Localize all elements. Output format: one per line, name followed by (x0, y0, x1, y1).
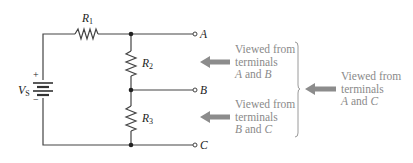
terminal-circles (193, 32, 197, 147)
circuit-diagram: + − VS R1 R2 R3 A B C Viewed from termin… (0, 0, 413, 163)
annotation-ac: Viewed from terminals A and C (340, 70, 401, 107)
resistor-r2 (126, 51, 136, 76)
r3-label: R3 (141, 112, 153, 126)
brace-bracket (295, 42, 300, 137)
svg-text:A and B: A and B (234, 68, 271, 80)
resistor-r3 (126, 106, 136, 131)
arrow-left-icon (200, 56, 230, 68)
terminal-b-label: B (200, 84, 207, 96)
wire-bottom (43, 98, 193, 145)
r1-label: R1 (81, 12, 93, 26)
arrow-left-icon (305, 83, 336, 95)
svg-text:B and C: B and C (235, 123, 272, 135)
annotation-ab: Viewed from terminals A and B (234, 43, 295, 80)
svg-text:A and C: A and C (340, 95, 378, 107)
wires (43, 29, 193, 145)
battery-plus-sign: + (33, 69, 39, 80)
svg-text:Viewed from: Viewed from (235, 43, 295, 55)
r2-label: R2 (141, 57, 153, 71)
source-label: VS (18, 83, 30, 98)
svg-text:terminals: terminals (235, 111, 278, 123)
svg-text:terminals: terminals (235, 56, 278, 68)
svg-text:Viewed from: Viewed from (341, 70, 401, 82)
battery-minus-sign: − (33, 94, 39, 105)
wire-top-left (43, 34, 75, 80)
svg-text:Viewed from: Viewed from (235, 98, 295, 110)
terminal-c-label: C (200, 139, 208, 151)
terminal-a-label: A (199, 28, 208, 40)
annotation-bc: Viewed from terminals B and C (235, 98, 295, 135)
resistor-r1 (75, 29, 98, 39)
svg-text:terminals: terminals (341, 83, 384, 95)
arrow-left-icon (200, 111, 230, 123)
